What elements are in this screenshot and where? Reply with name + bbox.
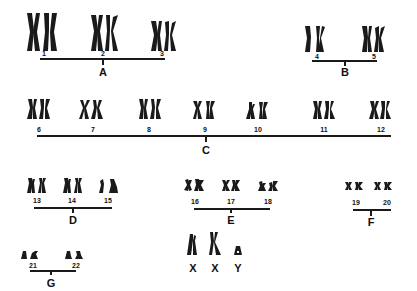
group-label-b: B [341, 67, 349, 78]
chromosome-2-pair [88, 14, 120, 52]
chromosome-6-pair [26, 98, 52, 120]
group-label-g: G [47, 278, 56, 289]
chromosome-label-5: 5 [372, 53, 376, 60]
chromosome-label-14: 14 [68, 197, 76, 204]
group-label-a: A [99, 67, 107, 78]
chromosome-y [233, 245, 243, 256]
chromosome-15-pair [97, 178, 119, 194]
chromosome-16-pair [183, 178, 205, 192]
sex-chromosome-label-x-1: X [189, 263, 196, 274]
karyotype-diagram: 1 2 3 A 4 5 B [0, 0, 417, 291]
chromosome-label-8: 8 [147, 126, 151, 133]
chromosome-label-4: 4 [315, 53, 319, 60]
chromosome-label-12: 12 [377, 126, 385, 133]
group-g-bar [30, 270, 76, 272]
chromosome-label-1: 1 [42, 50, 46, 57]
chromosome-4-pair [303, 25, 327, 53]
group-label-d: D [69, 215, 77, 226]
group-a-tick [102, 59, 104, 65]
chromosome-label-10: 10 [254, 126, 262, 133]
chromosome-label-17: 17 [227, 198, 235, 205]
chromosome-label-7: 7 [91, 126, 95, 133]
chromosome-9-pair [192, 100, 216, 120]
chromosome-label-2: 2 [101, 50, 105, 57]
chromosome-22-pair [64, 250, 84, 260]
chromosome-14-pair [62, 177, 83, 194]
chromosome-8-pair [137, 98, 163, 120]
chromosome-10-pair [245, 101, 269, 120]
chromosome-label-13: 13 [33, 197, 41, 204]
chromosome-11-pair [311, 100, 337, 120]
chromosome-1-pair [24, 12, 60, 52]
chromosome-3-pair [148, 20, 178, 52]
group-label-c: C [202, 145, 210, 156]
group-g-tick [50, 271, 52, 275]
chromosome-21-pair [20, 250, 40, 260]
group-label-e: E [227, 215, 234, 226]
group-label-f: F [368, 217, 375, 228]
chromosome-7-pair [78, 99, 104, 120]
group-e-bar [194, 208, 270, 210]
group-c-tick [205, 136, 207, 142]
chromosome-19-pair [344, 181, 364, 191]
group-e-tick [230, 209, 232, 213]
group-d-tick [72, 208, 74, 213]
sex-chromosome-label-y: Y [234, 263, 241, 274]
chromosome-13-pair [26, 177, 47, 194]
chromosome-label-15: 15 [104, 197, 112, 204]
chromosome-x-1 [186, 233, 198, 256]
chromosome-label-19: 19 [352, 199, 360, 206]
chromosome-label-20: 20 [383, 199, 391, 206]
chromosome-label-11: 11 [320, 126, 327, 133]
chromosome-label-21: 21 [29, 262, 37, 269]
chromosome-17-pair [221, 179, 241, 192]
group-c-bar [37, 135, 391, 137]
chromosome-20-pair [373, 181, 393, 191]
group-f-bar [353, 209, 391, 211]
chromosome-x-2 [208, 231, 222, 256]
chromosome-5-pair [360, 25, 386, 53]
chromosome-18-pair [257, 180, 279, 192]
chromosome-label-6: 6 [37, 126, 41, 133]
chromosome-label-22: 22 [72, 262, 80, 269]
sex-chromosome-label-x-2: X [211, 263, 218, 274]
chromosome-label-16: 16 [191, 198, 199, 205]
chromosome-label-3: 3 [160, 50, 164, 57]
chromosome-label-9: 9 [203, 126, 207, 133]
chromosome-12-pair [368, 100, 392, 120]
chromosome-label-18: 18 [264, 198, 272, 205]
